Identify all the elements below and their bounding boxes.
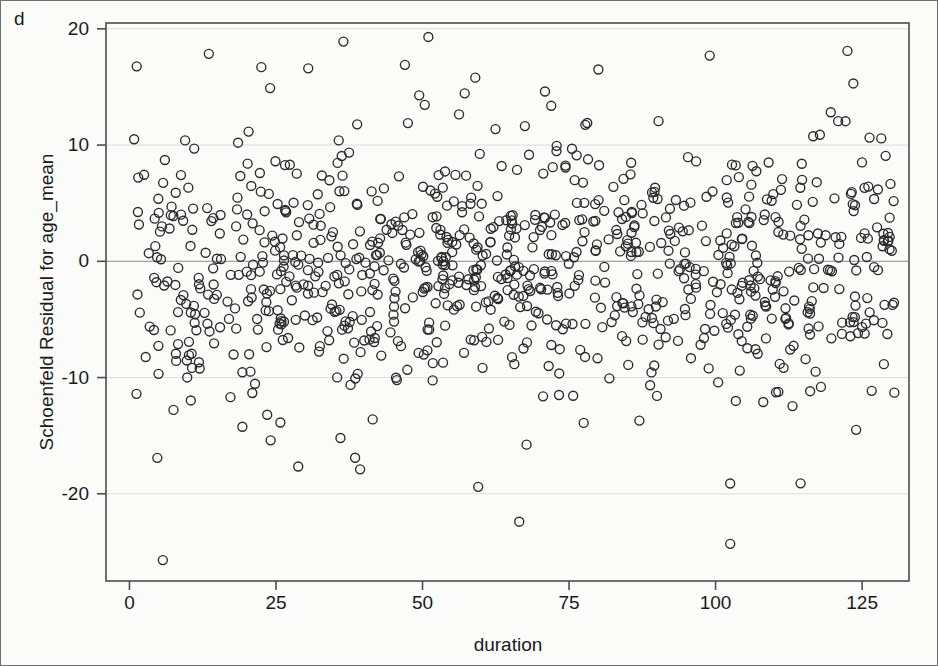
figure-page: d Schoenfeld Residual for age_mean durat… <box>0 0 938 666</box>
scatter-point <box>653 269 662 278</box>
scatter-point <box>718 309 727 318</box>
scatter-point <box>253 325 262 334</box>
scatter-point <box>878 318 887 327</box>
scatter-point <box>454 278 463 287</box>
scatter-point <box>572 247 581 256</box>
scatter-point <box>439 358 448 367</box>
scatter-point <box>368 415 377 424</box>
scatter-point <box>671 195 680 204</box>
scatter-point <box>852 266 861 275</box>
scatter-point <box>415 228 424 237</box>
scatter-point <box>873 185 882 194</box>
scatter-point <box>248 389 257 398</box>
scatter-point <box>408 210 417 219</box>
scatter-point <box>379 266 388 275</box>
scatter-point <box>714 378 723 387</box>
scatter-point <box>883 330 892 339</box>
scatter-point <box>879 360 888 369</box>
scatter-point <box>340 277 349 286</box>
scatter-point <box>471 73 480 82</box>
scatter-point <box>477 199 486 208</box>
scatter-point <box>539 392 548 401</box>
scatter-point <box>527 321 536 330</box>
scatter-point <box>176 171 185 180</box>
scatter-point <box>733 213 742 222</box>
scatter-point <box>862 253 871 262</box>
scatter-point <box>857 158 866 167</box>
scatter-point <box>624 360 633 369</box>
scatter-point <box>336 251 345 260</box>
scatter-point <box>294 462 303 471</box>
scatter-point <box>325 336 334 345</box>
scatter-point <box>806 330 815 339</box>
scatter-point <box>231 304 240 313</box>
scatter-point <box>370 279 379 288</box>
scatter-point <box>638 209 647 218</box>
scatter-point <box>745 192 754 201</box>
scatter-point <box>540 87 549 96</box>
scatter-point <box>276 418 285 427</box>
scatter-point <box>462 171 471 180</box>
scatter-point <box>295 343 304 352</box>
scatter-point <box>706 301 715 310</box>
scatter-point <box>491 125 500 134</box>
scatter-point <box>509 290 518 299</box>
scatter-point <box>154 341 163 350</box>
scatter-point <box>558 220 567 229</box>
scatter-point <box>497 161 506 170</box>
scatter-point <box>294 218 303 227</box>
scatter-point <box>814 254 823 263</box>
scatter-point <box>885 213 894 222</box>
scatter-point <box>130 135 139 144</box>
scatter-point <box>278 335 287 344</box>
scatter-point <box>664 246 673 255</box>
gridline-group <box>106 29 909 494</box>
scatter-point <box>609 182 618 191</box>
scatter-point <box>257 63 266 72</box>
scatter-point <box>555 369 564 378</box>
scatter-point <box>189 204 198 213</box>
scatter-point <box>245 350 254 359</box>
scatter-point <box>333 242 342 251</box>
scatter-point <box>590 293 599 302</box>
scatter-point <box>865 133 874 142</box>
scatter-point <box>814 322 823 331</box>
scatter-point <box>486 238 495 247</box>
scatter-point <box>764 158 773 167</box>
scatter-point <box>182 356 191 365</box>
scatter-point <box>204 49 213 58</box>
scatter-point <box>704 364 713 373</box>
scatter-point <box>355 227 364 236</box>
scatter-point <box>473 181 482 190</box>
scatter-point <box>174 340 183 349</box>
scatter-point <box>812 178 821 187</box>
scatter-point <box>628 308 637 317</box>
scatter-point <box>785 267 794 276</box>
scatter-point <box>552 321 561 330</box>
scatter-point <box>181 136 190 145</box>
scatter-point <box>701 237 710 246</box>
scatter-point <box>797 159 806 168</box>
scatter-point <box>616 247 625 256</box>
scatter-point <box>567 144 576 153</box>
scatter-point <box>291 315 300 324</box>
scatter-point <box>414 348 423 357</box>
scatter-point <box>851 301 860 310</box>
scatter-point <box>657 238 666 247</box>
scatter-point <box>333 270 342 279</box>
scatter-point <box>570 176 579 185</box>
scatter-point <box>669 314 678 323</box>
scatter-point <box>792 200 801 209</box>
scatter-point <box>886 179 895 188</box>
scatter-point <box>271 157 280 166</box>
scatter-point <box>351 453 360 462</box>
scatter-point <box>313 190 322 199</box>
scatter-point <box>804 231 813 240</box>
scatter-point <box>353 120 362 129</box>
scatter-point <box>223 297 232 306</box>
scatter-point <box>661 333 670 342</box>
scatter-point <box>346 380 355 389</box>
scatter-point <box>756 275 765 284</box>
scatter-point <box>233 205 242 214</box>
scatter-point <box>646 381 655 390</box>
